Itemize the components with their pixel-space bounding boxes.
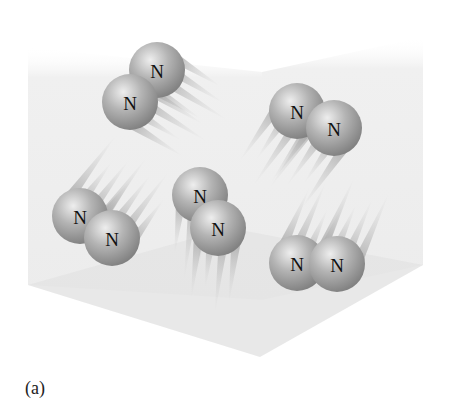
nitrogen-atom: N <box>190 200 246 256</box>
atom-label: N <box>105 229 119 250</box>
atom-label: N <box>211 219 225 240</box>
atom-label: N <box>290 254 304 275</box>
gas-container-illustration: NNNNNNNNNN <box>0 0 455 403</box>
nitrogen-atom: N <box>306 100 362 156</box>
molecule-bottom-right: NN <box>269 235 365 292</box>
atom-label: N <box>327 119 341 140</box>
nitrogen-atom: N <box>84 210 140 266</box>
nitrogen-atom: N <box>309 236 365 292</box>
atom-label: N <box>73 207 87 228</box>
nitrogen-atom: N <box>102 74 158 130</box>
atom-label: N <box>290 102 304 123</box>
atom-label: N <box>123 93 137 114</box>
atom-label: N <box>330 255 344 276</box>
atom-label: N <box>150 61 164 82</box>
figure-caption: (a) <box>25 378 45 399</box>
